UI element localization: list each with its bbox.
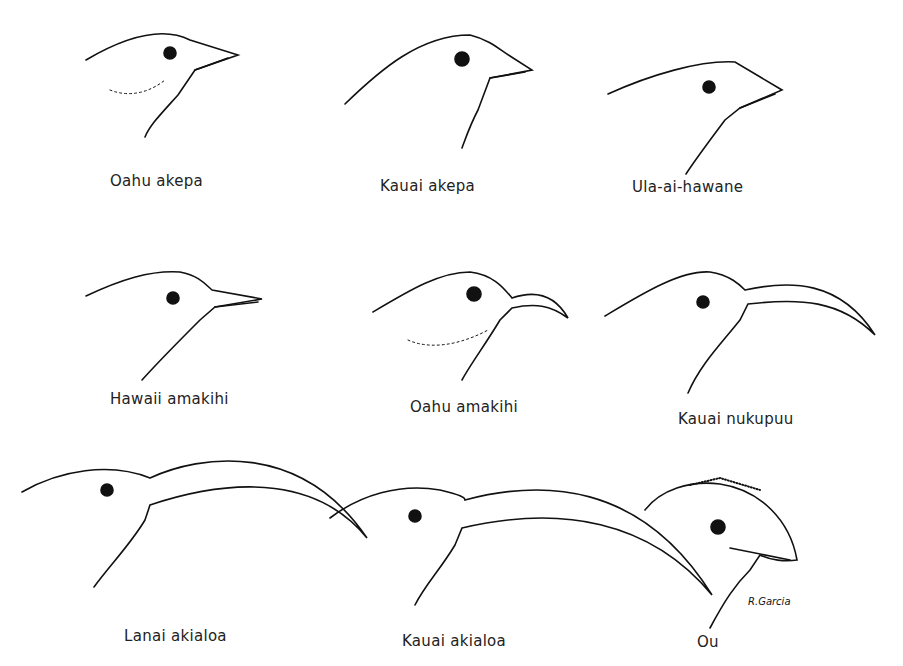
lanai-akialoa-head (22, 461, 367, 587)
hawaii-amakihi-head (86, 272, 262, 380)
kauai-akialoa-head (330, 488, 712, 605)
label-lanai-akialoa: Lanai akialoa (124, 627, 227, 645)
label-oahu-amakihi: Oahu amakihi (410, 398, 518, 416)
label-kauai-nukupuu: Kauai nukupuu (678, 410, 794, 428)
kauai-nukupuu-head (605, 272, 875, 393)
label-hawaii-amakihi: Hawaii amakihi (110, 390, 229, 408)
label-oahu-akepa: Oahu akepa (110, 172, 203, 190)
bird-head-illustration: Oahu akepa Kauai akepa Ula-ai-hawane Haw… (0, 0, 903, 666)
label-kauai-akepa: Kauai akepa (380, 177, 475, 195)
artist-signature: R.Garcia (748, 596, 791, 607)
oahu-akepa-head (86, 34, 238, 137)
ula-ai-hawane-head (608, 62, 782, 174)
label-kauai-akialoa: Kauai akialoa (402, 632, 506, 650)
oahu-amakihi-head (373, 272, 568, 380)
label-ou: Ou (697, 633, 719, 651)
bird-heads-drawing (0, 0, 903, 666)
label-ula-ai-hawane: Ula-ai-hawane (632, 178, 743, 196)
kauai-akepa-head (345, 35, 532, 148)
